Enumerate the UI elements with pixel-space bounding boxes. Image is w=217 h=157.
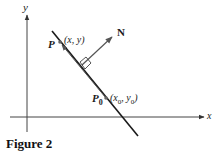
normal-vector-label: N [117, 27, 125, 38]
p0-sub: 0 [99, 98, 103, 107]
point-P0-label: P0 [92, 93, 103, 107]
p0-coords-sep: , y [121, 92, 130, 103]
point-P [58, 40, 62, 44]
figure-caption: Figure 2 [6, 136, 52, 152]
direction-vector [62, 45, 106, 98]
p0-coords-x: (x [110, 92, 118, 103]
point-P0-coords: (x0, y0) [110, 93, 138, 106]
line-L [52, 31, 138, 136]
point-P0 [104, 96, 108, 100]
diagram-canvas [0, 0, 217, 157]
y-axis-label: y [23, 2, 28, 13]
p0-name: P [92, 92, 99, 104]
point-P-label: P [48, 39, 55, 50]
point-P-coords: (x, y) [64, 35, 85, 45]
p0-coords-end: ) [134, 92, 137, 103]
x-axis-label: x [207, 111, 211, 121]
normal-vector [82, 37, 112, 65]
